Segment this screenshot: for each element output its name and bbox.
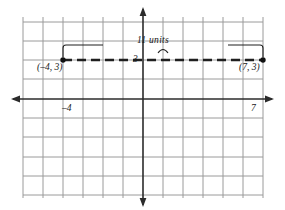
point-label-left: (–4, 3) [37, 63, 62, 73]
x-axis-right-arrow-icon [265, 96, 274, 103]
coordinate-grid-svg [0, 0, 285, 210]
point-label-right: (7, 3) [239, 63, 260, 73]
y-axis-bottom-arrow-icon [140, 198, 147, 207]
coordinate-plane-figure: (–4, 3) (7, 3) 3 –4 7 11 units [0, 0, 285, 210]
x-axis-left-arrow-icon [11, 96, 20, 103]
y-value-label: 3 [133, 55, 138, 65]
x-tick-label-negative-four: –4 [62, 104, 72, 114]
point-marker-right [260, 57, 265, 62]
distance-label: 11 units [137, 36, 169, 46]
y-axis-top-arrow-icon [140, 7, 147, 16]
x-tick-label-seven: 7 [251, 104, 256, 114]
